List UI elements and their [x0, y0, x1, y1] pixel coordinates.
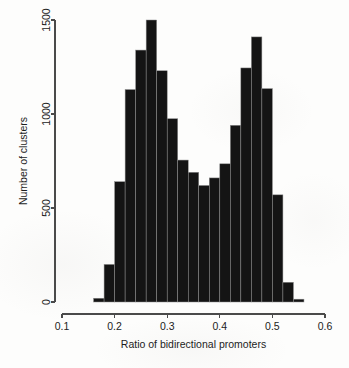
- histogram-bar: [178, 160, 189, 302]
- histogram-bar: [241, 68, 252, 302]
- x-tick-label: 0.4: [212, 320, 227, 332]
- histogram-bar: [199, 185, 210, 302]
- y-tick-label: 1500: [40, 8, 52, 32]
- histogram-bar: [230, 125, 241, 302]
- histogram-bar: [104, 264, 115, 302]
- histogram-bar: [262, 89, 273, 302]
- x-tick-label: 0.1: [55, 320, 70, 332]
- histogram-bar: [293, 299, 304, 302]
- histogram-plot: 050010001500 0.10.20.30.40.50.6 Ratio of…: [0, 0, 349, 368]
- histogram-bar: [209, 178, 220, 302]
- histogram-figure: 050010001500 0.10.20.30.40.50.6 Ratio of…: [0, 0, 349, 368]
- histogram-bar: [146, 20, 157, 302]
- x-tick-label: 0.3: [160, 320, 175, 332]
- histogram-bar: [188, 172, 199, 302]
- x-axis: [62, 314, 325, 318]
- x-tick-label: 0.6: [318, 320, 333, 332]
- histogram-bar: [157, 71, 168, 302]
- histogram-bar: [272, 195, 283, 302]
- x-tick-label: 0.2: [107, 320, 122, 332]
- histogram-bar: [283, 282, 294, 302]
- y-axis: [51, 20, 55, 302]
- y-tick-label: 500: [40, 199, 52, 217]
- x-tick-label: 0.5: [265, 320, 280, 332]
- y-tick-label: 1000: [40, 102, 52, 126]
- histogram-bar: [251, 37, 262, 302]
- y-axis-title: Number of clusters: [17, 117, 29, 205]
- y-tick-labels: 050010001500: [40, 8, 52, 305]
- histogram-bar: [220, 164, 231, 302]
- histogram-bar: [94, 298, 105, 302]
- y-tick-label: 0: [40, 299, 52, 305]
- bars-group: [94, 20, 304, 302]
- histogram-bar: [136, 50, 147, 302]
- x-axis-title: Ratio of bidirectional promoters: [121, 338, 266, 350]
- histogram-bar: [115, 182, 126, 302]
- histogram-bar: [167, 119, 178, 302]
- histogram-bar: [125, 90, 136, 302]
- x-tick-labels: 0.10.20.30.40.50.6: [55, 320, 333, 332]
